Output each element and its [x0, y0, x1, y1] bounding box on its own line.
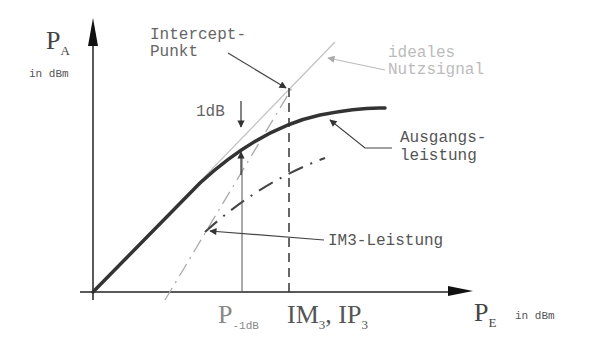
y-axis	[88, 18, 98, 300]
intercept-label-line1: Intercept-	[150, 27, 246, 43]
x-axis	[80, 286, 473, 296]
im3-curve	[205, 158, 325, 232]
im3-label: IM3-Leistung	[328, 233, 443, 249]
intercept-label-line2: Punkt	[150, 44, 198, 60]
im3-symbol: IM	[287, 300, 319, 329]
im3-subscript: 3	[319, 317, 326, 332]
p1db-subscript: -1dB	[232, 320, 258, 332]
y-axis-symbol: PA	[46, 28, 70, 54]
p1db-symbol: P	[218, 300, 232, 329]
ideal-signal-label-line2: Nutzsignal	[388, 62, 484, 78]
ip3-symbol: IP	[338, 300, 361, 329]
x-axis-unit: in dBm	[515, 311, 555, 322]
im3-ip3-tick-label: IM3, IP3	[287, 302, 368, 328]
ideal-signal-arrow-icon	[328, 58, 385, 70]
one-db-label: 1dB	[196, 104, 225, 120]
im3-arrow-icon	[210, 231, 324, 240]
x-axis-symbol: PE	[474, 300, 496, 326]
y-axis-subscript: A	[60, 43, 69, 58]
output-label-line1: Ausgangs-	[400, 130, 486, 146]
p1db-tick-label: P-1dB	[218, 302, 259, 328]
y-axis-unit: in dBm	[29, 69, 69, 80]
output-power-curve	[93, 108, 385, 292]
y-axis-symbol-text: P	[46, 26, 60, 55]
ideal-signal-label-line1: ideales	[388, 45, 455, 61]
x-axis-symbol-text: P	[474, 298, 488, 327]
output-label-line2: leistung	[400, 148, 477, 164]
output-arrow-icon	[330, 120, 392, 148]
ip3-subscript: 3	[361, 317, 368, 332]
im3-extrapolation-line	[165, 88, 292, 300]
tick-separator: ,	[325, 300, 332, 329]
intercept-arrow-icon	[228, 53, 286, 88]
diagram-canvas	[0, 0, 600, 344]
x-axis-subscript: E	[488, 315, 496, 330]
